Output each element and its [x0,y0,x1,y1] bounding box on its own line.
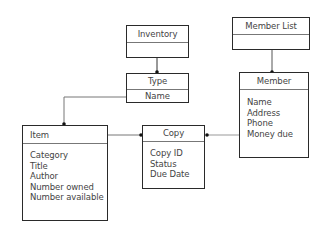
member-copy-dot [205,133,209,137]
item-attr-number-available: Number available [30,192,107,203]
class-copy: Copy Copy ID Status Due Date [142,125,205,189]
member-attr-money-due: Money due [247,129,308,140]
item-attr-title: Title [30,161,107,172]
class-member-attributes: Name Address Phone Money due [240,90,308,139]
class-copy-attributes: Copy ID Status Due Date [143,142,204,180]
item-attr-number-owned: Number owned [30,182,107,193]
item-attr-category: Category [30,150,107,161]
type-item-link [64,97,127,125]
class-type-attr-name: Name [127,90,188,103]
member-attr-name: Name [247,97,308,108]
class-member-name: Member [240,73,308,90]
class-type-name: Type [127,74,188,90]
copy-attr-due-date: Due Date [150,169,204,180]
class-inventory-name: Inventory [127,26,188,43]
class-member-list-name: Member List [233,18,309,35]
copy-attr-copy-id: Copy ID [150,148,204,159]
class-item-attributes: Category Title Author Number owned Numbe… [23,144,107,203]
class-item: Item Category Title Author Number owned … [22,125,108,221]
class-member: Member Name Address Phone Money due [239,72,309,158]
item-attr-author: Author [30,171,107,182]
class-inventory: Inventory [126,25,189,58]
class-type: Type Name [126,73,189,103]
member-attr-phone: Phone [247,118,308,129]
member-attr-address: Address [247,108,308,119]
class-copy-name: Copy [143,126,204,142]
class-member-list: Member List [232,17,310,50]
class-item-name: Item [23,126,107,144]
copy-attr-status: Status [150,159,204,170]
